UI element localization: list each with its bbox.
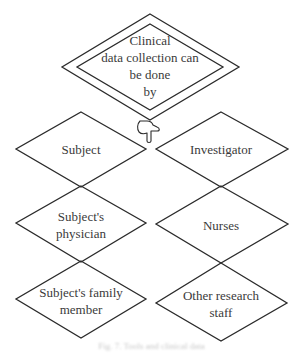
node-label-subject: Subject (36, 139, 126, 159)
root-label: Clinical data collection can be done by (90, 30, 210, 102)
node-label-subjects-family-member: Subject's family member (26, 283, 136, 319)
node-label-other-research-staff: Other research staff (166, 286, 276, 322)
pointing-hand-icon (138, 121, 160, 143)
node-label-investigator: Investigator (176, 139, 266, 159)
figure-caption: Fig. 7. Tools and clinical data (0, 341, 303, 351)
node-label-subjects-physician: Subject's physician (36, 207, 126, 243)
node-label-nurses: Nurses (176, 215, 266, 235)
